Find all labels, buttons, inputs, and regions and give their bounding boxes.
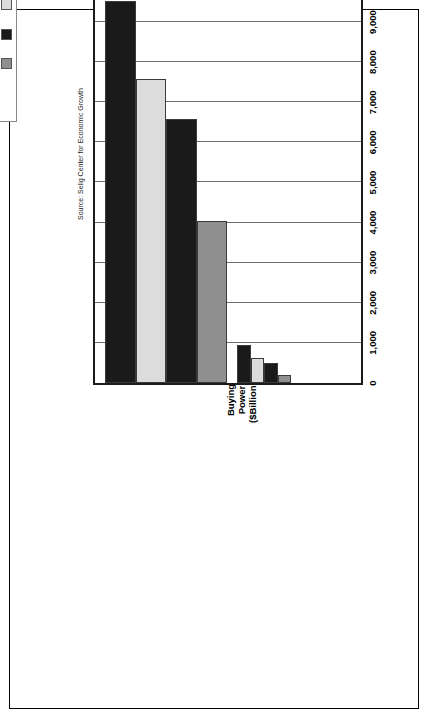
legend-swatch (1, 58, 12, 69)
bar-hispanic-2008 (237, 345, 251, 383)
legend-item: 1990 (0, 52, 12, 74)
source-note: Source: Selig Center for Economic Growth (77, 88, 84, 220)
axis-tick-label: 3,000 (367, 251, 378, 275)
axis-tick-label: 4,000 (367, 211, 378, 235)
bar-non-hispanic-2008 (105, 1, 136, 383)
legend-items: 1990200020032008 (0, 0, 12, 74)
bar-hispanic-2000 (264, 363, 278, 383)
bar-non-hispanic-2003 (136, 79, 167, 383)
axis-tick-label: 8,000 (367, 50, 378, 74)
bar-non-hispanic-2000 (166, 119, 197, 383)
page-frame: Source: Selig Center for Economic Growth… (9, 9, 419, 709)
axis-tick-label: 1,000 (367, 331, 378, 355)
legend-item: 2003 (0, 0, 12, 16)
bar-hispanic-2003 (251, 358, 265, 383)
bar-hispanic-1990 (278, 375, 292, 383)
axis-tick-label: 2,000 (367, 291, 378, 315)
legend-item: 2000 (0, 23, 12, 45)
bar-chart: Source: Selig Center for Economic Growth… (75, 0, 375, 520)
axis-tick-label: 9,000 (367, 10, 378, 34)
legend-swatch (1, 29, 12, 40)
axis-tick-label: 7,000 (367, 90, 378, 114)
bar-non-hispanic-1990 (197, 221, 228, 383)
legend-swatch (1, 0, 12, 10)
plot-area (93, 0, 363, 385)
chart-legend: Legend 1990200020032008 (0, 0, 17, 122)
axis-tick-label: 5,000 (367, 171, 378, 195)
axis-tick-label: 0 (367, 380, 378, 385)
axis-tick-label: 6,000 (367, 131, 378, 155)
